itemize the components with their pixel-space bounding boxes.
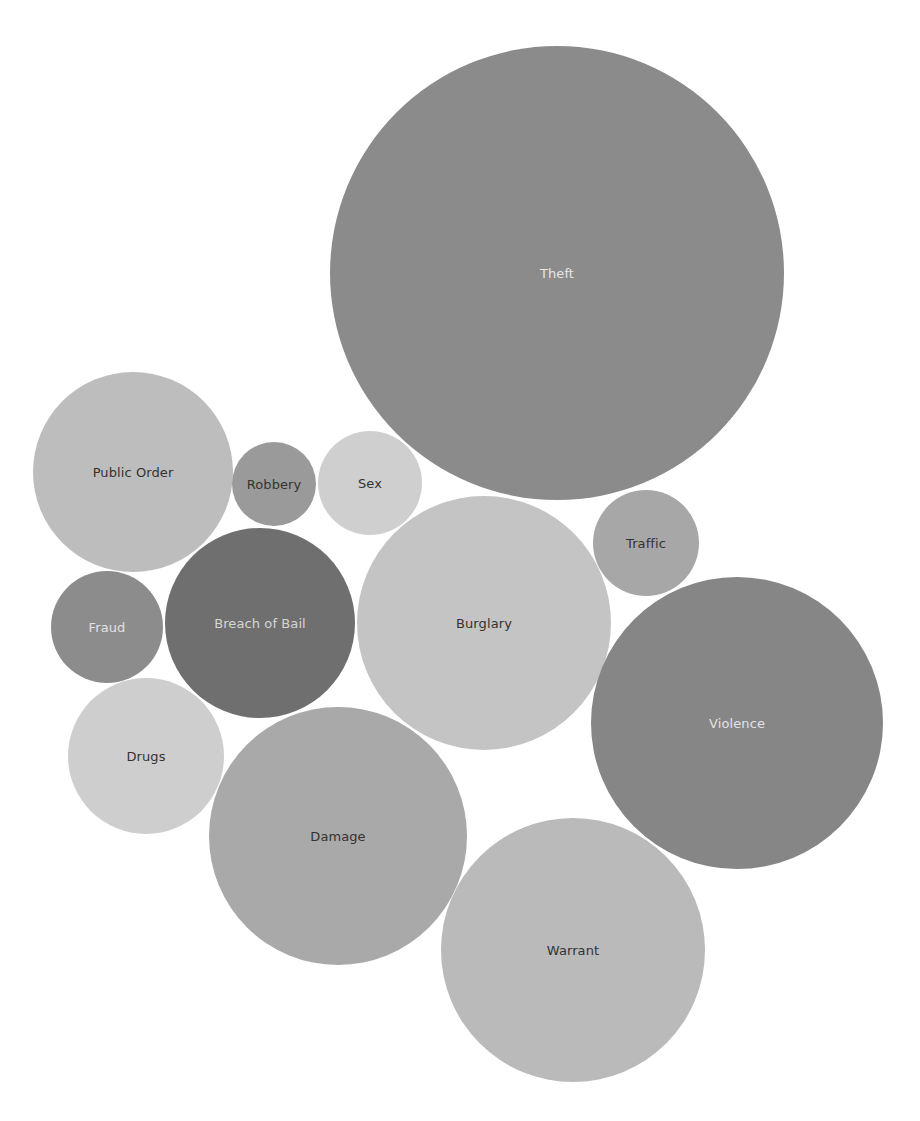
bubble-drugs[interactable]: Drugs bbox=[68, 678, 224, 834]
bubble-label: Fraud bbox=[89, 620, 126, 635]
bubble-label: Drugs bbox=[126, 749, 165, 764]
bubble-label: Burglary bbox=[456, 616, 512, 631]
bubble-label: Public Order bbox=[93, 465, 174, 480]
bubble-burglary[interactable]: Burglary bbox=[357, 496, 611, 750]
bubble-damage[interactable]: Damage bbox=[209, 707, 467, 965]
bubble-label: Damage bbox=[310, 829, 365, 844]
bubble-label: Traffic bbox=[626, 536, 666, 551]
bubble-breach-of-bail[interactable]: Breach of Bail bbox=[165, 528, 355, 718]
bubble-label: Breach of Bail bbox=[214, 616, 306, 631]
bubble-label: Theft bbox=[540, 266, 574, 281]
bubble-label: Warrant bbox=[547, 943, 599, 958]
bubble-robbery[interactable]: Robbery bbox=[232, 442, 316, 526]
bubble-theft[interactable]: Theft bbox=[330, 46, 784, 500]
bubble-warrant[interactable]: Warrant bbox=[441, 818, 705, 1082]
bubble-label: Violence bbox=[709, 716, 765, 731]
bubble-fraud[interactable]: Fraud bbox=[51, 571, 163, 683]
bubble-public-order[interactable]: Public Order bbox=[33, 372, 233, 572]
bubble-label: Robbery bbox=[247, 477, 302, 492]
bubble-traffic[interactable]: Traffic bbox=[593, 490, 699, 596]
bubble-violence[interactable]: Violence bbox=[591, 577, 883, 869]
packed-bubble-chart: TheftPublic OrderRobberySexTrafficFraudB… bbox=[0, 0, 920, 1121]
bubble-label: Sex bbox=[358, 476, 382, 491]
bubble-sex[interactable]: Sex bbox=[318, 431, 422, 535]
